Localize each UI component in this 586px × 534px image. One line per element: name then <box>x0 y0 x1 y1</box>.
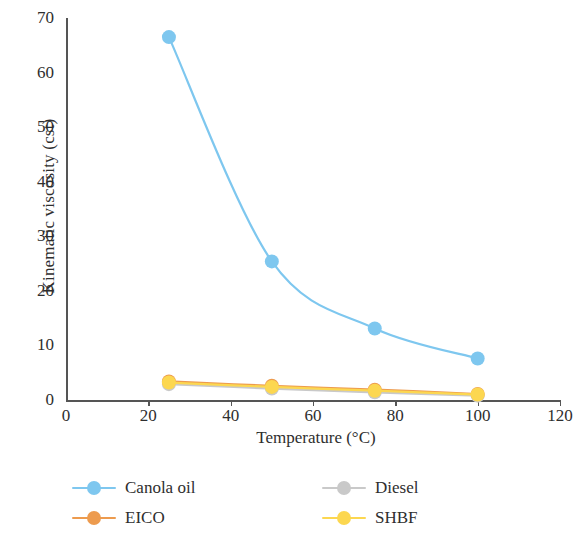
legend-item-eico[interactable]: EICO <box>72 508 322 528</box>
legend-label: SHBF <box>375 508 418 528</box>
legend-swatch-icon <box>72 481 116 495</box>
y-tick-label: 40 <box>14 173 54 190</box>
series-line <box>169 383 478 395</box>
data-point <box>368 384 382 398</box>
y-tick-label: 30 <box>14 227 54 244</box>
data-point <box>162 30 176 44</box>
plot-area <box>66 18 560 400</box>
legend-swatch-icon <box>72 511 116 525</box>
legend-item-canola-oil[interactable]: Canola oil <box>72 478 322 498</box>
chart-legend: Canola oilDieselEICOSHBF <box>72 478 522 528</box>
x-axis-title: Temperature (°C) <box>66 428 566 448</box>
x-tick-mark <box>231 400 232 406</box>
data-point <box>265 254 279 268</box>
x-tick-label: 0 <box>46 407 86 424</box>
y-tick-label: 10 <box>14 336 54 353</box>
series-eico <box>162 374 485 401</box>
series-canola-oil <box>162 30 485 365</box>
data-point <box>368 322 382 336</box>
series-plot <box>66 18 560 400</box>
x-tick-mark <box>148 400 149 406</box>
data-point <box>471 352 485 366</box>
legend-label: Canola oil <box>125 478 195 498</box>
y-tick-label: 0 <box>14 391 54 408</box>
y-axis-title: Kinematic viscosity (cst) <box>39 61 59 351</box>
x-tick-mark <box>560 400 561 406</box>
y-tick-label: 70 <box>14 9 54 26</box>
legend-swatch-icon <box>322 511 366 525</box>
x-tick-label: 40 <box>211 407 251 424</box>
kinematic-viscosity-line-chart: Kinematic viscosity (cst) Temperature (°… <box>0 0 586 534</box>
y-tick-label: 60 <box>14 64 54 81</box>
data-point <box>162 376 176 390</box>
x-tick-mark <box>313 400 314 406</box>
legend-swatch-icon <box>322 481 366 495</box>
x-tick-label: 60 <box>293 407 333 424</box>
legend-label: Diesel <box>375 478 418 498</box>
series-line <box>169 37 478 358</box>
data-point <box>265 380 279 394</box>
x-tick-mark <box>395 400 396 406</box>
y-tick-label: 20 <box>14 282 54 299</box>
x-tick-label: 20 <box>128 407 168 424</box>
series-shbf <box>162 376 485 402</box>
x-tick-label: 100 <box>458 407 498 424</box>
legend-item-diesel[interactable]: Diesel <box>322 478 522 498</box>
y-tick-label: 50 <box>14 118 54 135</box>
legend-item-shbf[interactable]: SHBF <box>322 508 522 528</box>
data-point <box>471 388 485 402</box>
x-tick-label: 80 <box>375 407 415 424</box>
legend-label: EICO <box>125 508 165 528</box>
x-tick-label: 120 <box>540 407 580 424</box>
